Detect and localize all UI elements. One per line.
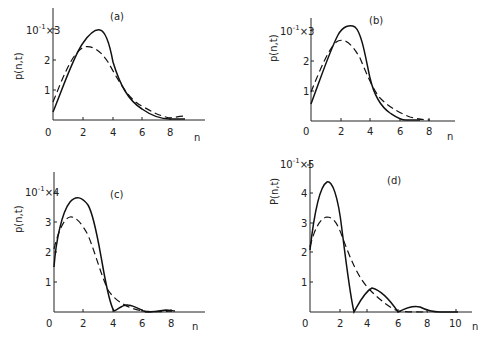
solid-curve (53, 30, 185, 119)
xtick-label: 2 (80, 127, 86, 138)
ytick-label: 3 (301, 218, 307, 229)
y-axis-label: p(n,t) (13, 52, 24, 80)
ytick-label: 1 (44, 85, 50, 96)
xtick-label: 8 (167, 127, 173, 138)
xtick-label: 0 (303, 126, 309, 137)
xtick-label: 0 (46, 318, 52, 329)
ytick-label: 2 (44, 55, 50, 66)
dashed-curve (54, 217, 172, 312)
xtick-label: 8 (168, 318, 174, 329)
xtick-label: 0 (302, 318, 308, 329)
xtick-label: 6 (139, 127, 145, 138)
panel-label: (b) (369, 15, 383, 26)
panel-a: 0 2 4 6 8 n 1 2 10-1×3 p(n,t) (a) (13, 8, 205, 143)
xtick-label: 4 (367, 126, 373, 137)
ytick-label: 2 (301, 247, 307, 258)
panel-b: 0 2 4 6 8 n 1 2 10-1×3 p(n,t) (b) (268, 15, 455, 142)
y-scale-label: 10-1×3 (26, 23, 60, 36)
x-axis-label: n (472, 321, 478, 332)
panel-label: (c) (110, 189, 123, 200)
panel-label: (a) (110, 11, 124, 22)
y-scale-label: 10-1×3 (280, 24, 314, 37)
ytick-label: 4 (301, 188, 307, 199)
x-axis-label: n (194, 132, 200, 143)
xtick-label: 4 (110, 127, 116, 138)
xtick-label: 8 (424, 318, 430, 329)
xtick-label: 4 (110, 318, 116, 329)
solid-curve (54, 198, 175, 312)
y-scale-label: 10-1×5 (280, 157, 314, 170)
xtick-label: 2 (337, 318, 343, 329)
ytick-label: 1 (45, 277, 51, 288)
x-axis-label: n (192, 321, 198, 332)
xtick-label: 2 (80, 318, 86, 329)
y-axis-label: P(n,t) (269, 178, 280, 205)
ytick-label: 1 (301, 277, 307, 288)
xtick-label: 6 (397, 126, 403, 137)
panel-label: (d) (387, 175, 401, 186)
xtick-label: 6 (139, 318, 145, 329)
dashed-curve (310, 217, 428, 312)
solid-curve (310, 182, 458, 312)
y-scale-label: 10-1×4 (25, 185, 59, 198)
y-axis-label: p(n,t) (268, 34, 279, 62)
y-axis-label: p(n,t) (13, 205, 24, 233)
solid-curve (311, 26, 420, 120)
xtick-label: 6 (395, 318, 401, 329)
dashed-curve (53, 47, 186, 118)
xtick-label: 4 (364, 318, 370, 329)
ytick-label: 3 (45, 217, 51, 228)
xtick-label: 10 (449, 318, 462, 329)
xtick-label: 2 (338, 126, 344, 137)
xtick-label: 8 (426, 126, 432, 137)
panel-d: 0 2 4 6 8 10 n 1 2 3 4 10-1×5 P(n,t) (d) (269, 157, 478, 332)
ytick-label: 1 (303, 86, 309, 97)
xtick-label: 0 (45, 127, 51, 138)
ytick-label: 2 (303, 56, 309, 67)
x-axis-label: n (447, 131, 453, 142)
panel-c: 0 2 4 6 8 n 1 2 3 10-1×4 p(n,t) (c) (13, 172, 205, 332)
figure: 0 2 4 6 8 n 1 2 10-1×3 p(n,t) (a) 0 2 4 … (0, 0, 483, 338)
ytick-label: 2 (45, 247, 51, 258)
